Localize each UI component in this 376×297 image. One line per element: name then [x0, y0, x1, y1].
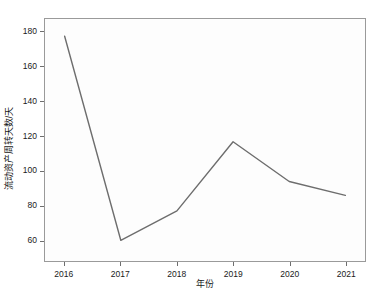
y-tick-label: 60 [28, 235, 37, 245]
x-tick-mark [177, 262, 178, 266]
y-tick-mark [40, 241, 44, 242]
y-tick-mark [40, 101, 44, 102]
data-line-svg [45, 19, 365, 261]
x-axis-title: 年份 [44, 277, 366, 290]
y-tick-label: 120 [23, 131, 37, 141]
y-tick-label: 180 [23, 26, 37, 36]
y-tick-mark [40, 206, 44, 207]
x-tick-mark [64, 262, 65, 266]
x-tick-mark [233, 262, 234, 266]
y-tick-mark [40, 171, 44, 172]
y-tick-mark [40, 31, 44, 32]
y-tick-label: 140 [23, 96, 37, 106]
y-tick-label: 160 [23, 61, 37, 71]
x-tick-mark [290, 262, 291, 266]
plot-area [44, 18, 366, 262]
data-series-line [65, 36, 346, 240]
y-tick-label: 100 [23, 165, 37, 175]
y-axis-title: 流动资产周转天数/天 [0, 0, 16, 297]
x-tick-mark [120, 262, 121, 266]
y-tick-mark [40, 66, 44, 67]
y-tick-label: 80 [28, 200, 37, 210]
y-tick-mark [40, 136, 44, 137]
x-tick-mark [346, 262, 347, 266]
chart-figure: 流动资产周转天数/天 6080100120140160180 201620172… [0, 0, 376, 297]
